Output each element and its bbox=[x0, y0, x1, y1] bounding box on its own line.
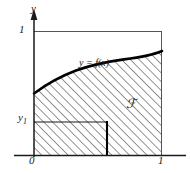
origin-label: 0 bbox=[29, 155, 35, 166]
y-sub-one-subscript: 1 bbox=[23, 117, 27, 126]
figure-canvas bbox=[0, 0, 190, 173]
y-axis-tick-label-one: 1 bbox=[19, 24, 25, 35]
y-axis-label: y bbox=[31, 3, 36, 14]
y-axis-tick-label-y-sub-one: y1 bbox=[18, 112, 27, 126]
region-annotation-label: ℱ bbox=[126, 97, 136, 110]
x-axis-tick-label-one: 1 bbox=[158, 155, 164, 166]
math-figure: y 1 y1 0 1 y = f(x) ℱ bbox=[0, 0, 190, 173]
curve-annotation-label: y = f(x) bbox=[79, 58, 109, 68]
